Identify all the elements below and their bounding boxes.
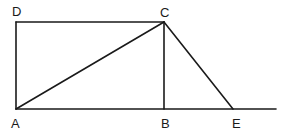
label-d: D (12, 4, 21, 19)
geometry-diagram: D C A B E (0, 0, 286, 132)
segment-ac (16, 22, 164, 109)
label-a: A (11, 116, 20, 131)
label-e: E (232, 116, 241, 131)
segment-ce (164, 22, 233, 109)
label-b: B (161, 116, 170, 131)
label-c: C (160, 5, 169, 20)
